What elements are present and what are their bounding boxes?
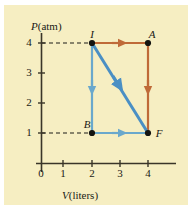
y-tick-label-4: 4 <box>22 36 36 48</box>
point-A <box>145 40 151 46</box>
y-tick-label-2: 2 <box>22 96 36 108</box>
x-tick-label-3: 3 <box>113 167 127 179</box>
x-tick-label-4: 4 <box>141 167 155 179</box>
point-I <box>89 40 95 46</box>
x-axis-variable: V <box>62 189 69 201</box>
y-axis-title: P(atm) <box>31 20 62 32</box>
point-F <box>145 130 151 136</box>
pv-diagram-figure: P(atm) V(liters) 4 3 2 1 0 1 2 3 4 I A B… <box>0 0 192 219</box>
x-axis-title: V(liters) <box>62 189 98 201</box>
y-axis-variable: P <box>31 20 38 32</box>
point-label-F: F <box>153 127 165 139</box>
path-i-to-f <box>92 43 148 133</box>
y-tick-label-1: 1 <box>22 126 36 138</box>
point-label-A: A <box>146 28 158 40</box>
point-label-B: B <box>81 118 93 130</box>
process-paths <box>92 43 148 133</box>
x-tick-label-2: 2 <box>85 167 99 179</box>
y-axis-units: (atm) <box>38 20 62 32</box>
point-label-I: I <box>86 28 98 40</box>
x-tick-label-0: 0 <box>34 167 48 179</box>
x-tick-label-1: 1 <box>56 167 70 179</box>
axes <box>36 33 176 172</box>
x-axis-units: (liters) <box>69 189 98 201</box>
y-tick-label-3: 3 <box>22 66 36 78</box>
point-B <box>89 130 95 136</box>
path-i-to-f-arrow <box>113 76 120 87</box>
